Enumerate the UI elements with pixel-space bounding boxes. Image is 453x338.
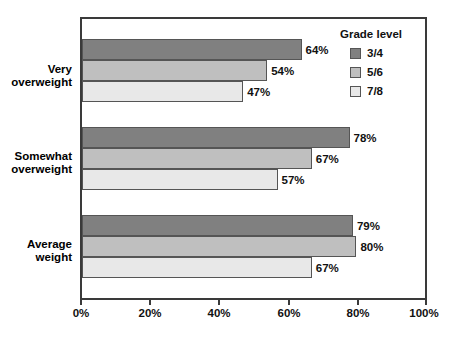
legend: Grade level 3/4 5/6 7/8: [340, 28, 424, 104]
plot-area: 64% 54% 47% 78% 67% 57% 79%: [80, 17, 427, 300]
bar-label-somewhat-overweight-3-4: 78%: [350, 132, 377, 144]
bar-label-very-overweight-3-4: 64%: [302, 44, 329, 56]
category-label-average-weight: Average weight: [0, 238, 72, 264]
category-label-line: Somewhat: [0, 150, 72, 163]
x-tick-label-0: 0%: [73, 307, 90, 319]
bar-group-somewhat-overweight: 78% 67% 57%: [82, 127, 425, 190]
bar-row: 67%: [82, 257, 425, 278]
bar-somewhat-overweight-5-6[interactable]: [82, 148, 312, 169]
bar-label-somewhat-overweight-7-8: 57%: [278, 174, 305, 186]
category-label-line: Average: [0, 238, 72, 251]
x-tick-mark: [218, 300, 220, 305]
bar-average-weight-7-8[interactable]: [82, 257, 312, 278]
legend-swatch-icon: [350, 67, 361, 78]
bar-row: 67%: [82, 148, 425, 169]
bar-label-very-overweight-7-8: 47%: [243, 86, 270, 98]
x-tick-mark: [425, 300, 427, 305]
x-tick-label-40: 40%: [207, 307, 230, 319]
bar-group-average-weight: 79% 80% 67%: [82, 215, 425, 278]
bar-label-somewhat-overweight-5-6: 67%: [312, 153, 339, 165]
bar-row: 79%: [82, 215, 425, 236]
bar-label-average-weight-7-8: 67%: [312, 262, 339, 274]
bar-very-overweight-7-8[interactable]: [82, 81, 243, 102]
bar-label-very-overweight-5-6: 54%: [267, 65, 294, 77]
legend-label: 7/8: [367, 85, 383, 97]
x-tick-label-20: 20%: [138, 307, 161, 319]
bar-row: 80%: [82, 236, 425, 257]
category-label-line: overweight: [0, 76, 72, 89]
legend-item-3-4[interactable]: 3/4: [340, 47, 424, 59]
legend-swatch-icon: [350, 86, 361, 97]
legend-swatch-icon: [350, 48, 361, 59]
bar-label-average-weight-3-4: 79%: [353, 220, 380, 232]
x-tick-label-100: 100%: [409, 307, 438, 319]
x-axis: 0% 20% 40% 60% 80% 100%: [80, 300, 427, 330]
x-tick-mark: [357, 300, 359, 305]
x-tick-label-80: 80%: [346, 307, 369, 319]
bar-label-average-weight-5-6: 80%: [356, 241, 383, 253]
category-label-line: Very: [0, 63, 72, 76]
legend-label: 5/6: [367, 66, 383, 78]
legend-item-5-6[interactable]: 5/6: [340, 66, 424, 78]
legend-item-7-8[interactable]: 7/8: [340, 85, 424, 97]
bar-row: 78%: [82, 127, 425, 148]
legend-label: 3/4: [367, 47, 383, 59]
category-label-somewhat-overweight: Somewhat overweight: [0, 150, 72, 176]
category-label-line: weight: [0, 251, 72, 264]
x-tick-mark: [288, 300, 290, 305]
category-axis-labels: Very overweight Somewhat overweight Aver…: [0, 17, 76, 300]
bar-very-overweight-3-4[interactable]: [82, 39, 302, 60]
bar-very-overweight-5-6[interactable]: [82, 60, 267, 81]
x-tick-label-60: 60%: [277, 307, 300, 319]
category-label-very-overweight: Very overweight: [0, 63, 72, 89]
bar-average-weight-5-6[interactable]: [82, 236, 356, 257]
bar-somewhat-overweight-3-4[interactable]: [82, 127, 350, 148]
x-tick-mark: [149, 300, 151, 305]
bar-somewhat-overweight-7-8[interactable]: [82, 169, 278, 190]
category-label-line: overweight: [0, 163, 72, 176]
chart-title: [0, 0, 453, 4]
x-tick-mark: [80, 300, 82, 305]
bar-average-weight-3-4[interactable]: [82, 215, 353, 236]
bar-row: 57%: [82, 169, 425, 190]
legend-title: Grade level: [340, 28, 424, 40]
